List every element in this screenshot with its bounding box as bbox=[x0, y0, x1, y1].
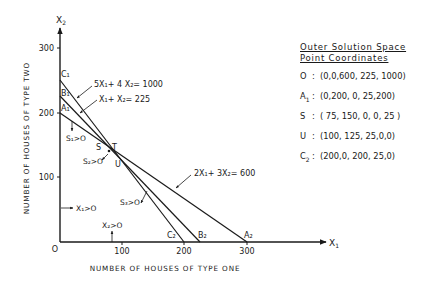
legend-panel: Outer Solution Space Point Coordinates O… bbox=[300, 43, 423, 163]
legend-row-c2: C2 : (200,0, 200, 25,0) bbox=[300, 152, 423, 163]
x-var-label: X1 bbox=[329, 238, 339, 249]
legend-point: A1 bbox=[300, 92, 312, 103]
point-label-c2: C₂ bbox=[167, 231, 176, 240]
leader-arrow-b bbox=[80, 100, 97, 113]
legend-coords: ( 75, 150, 0, 0, 25 ) bbox=[320, 112, 400, 123]
point-label-u: U bbox=[115, 160, 121, 169]
leader-arrow-c bbox=[77, 86, 92, 98]
legend-row-u: U : (100, 125, 25,0,0) bbox=[300, 132, 423, 143]
constraint-label-c: 5X₁+ 4 X₂= 1000 bbox=[94, 80, 163, 89]
x-tick-300: 300 bbox=[239, 247, 254, 256]
constraint-label-b: X₁+ X₂= 225 bbox=[99, 95, 150, 104]
point-label-s: S bbox=[96, 143, 101, 152]
s3-label: S₃>O bbox=[120, 198, 140, 207]
constraint-line-b bbox=[60, 96, 200, 242]
point-label-b1: B₁ bbox=[61, 89, 70, 98]
legend-colon: : bbox=[312, 112, 320, 123]
legend-coords: (0,0,600, 225, 1000) bbox=[320, 72, 406, 83]
legend-title: Outer Solution Space Point Coordinates bbox=[300, 43, 423, 62]
y-tick-200: 200 bbox=[39, 109, 54, 118]
legend-coords: (0,200, 0, 25,200) bbox=[320, 92, 395, 103]
legend-point: U bbox=[300, 132, 312, 143]
x1-label: X₁>O bbox=[76, 204, 96, 213]
point-label-t: T bbox=[111, 143, 117, 152]
point-marker-t bbox=[108, 150, 111, 153]
legend-colon: : bbox=[312, 72, 320, 83]
axes bbox=[57, 28, 326, 245]
legend-point: C2 bbox=[300, 152, 312, 163]
y-tick-100: 100 bbox=[39, 173, 54, 182]
point-label-c1: C₁ bbox=[61, 70, 70, 79]
legend-point: S bbox=[300, 112, 312, 123]
legend-row-o: O : (0,0,600, 225, 1000) bbox=[300, 72, 423, 83]
point-label-b2: B₂ bbox=[198, 231, 207, 240]
x-tick-100: 100 bbox=[114, 247, 129, 256]
point-label-a1: A₁ bbox=[61, 104, 70, 113]
legend-row-s: S : ( 75, 150, 0, 0, 25 ) bbox=[300, 112, 423, 123]
legend-row-a1: A1 : (0,200, 0, 25,200) bbox=[300, 92, 423, 103]
x-tick-200: 200 bbox=[176, 247, 191, 256]
y-var-label: X2 bbox=[56, 15, 66, 26]
s3-arrow bbox=[141, 191, 147, 203]
legend-coords: (200,0, 200, 25,0) bbox=[320, 152, 395, 163]
y-tick-300: 300 bbox=[39, 44, 54, 53]
legend-coords: (100, 125, 25,0,0) bbox=[320, 132, 395, 143]
x2-label: X₂>O bbox=[102, 221, 122, 230]
legend-colon: : bbox=[312, 92, 320, 103]
legend-title-line2: Point Coordinates bbox=[300, 54, 423, 63]
legend-title-line1: Outer Solution Space bbox=[300, 43, 423, 52]
x-axis-title: NUMBER OF HOUSES OF TYPE ONE bbox=[90, 264, 241, 273]
s2-label: S₂>O bbox=[83, 157, 103, 166]
leader-arrow-a bbox=[176, 175, 191, 188]
s1-label: S₁>O bbox=[66, 134, 86, 143]
origin-label: O bbox=[52, 245, 58, 254]
legend-colon: : bbox=[312, 132, 320, 143]
legend-colon: : bbox=[312, 152, 320, 163]
legend-point: O bbox=[300, 72, 312, 83]
constraint-label-a: 2X₁+ 3X₂= 600 bbox=[194, 169, 255, 178]
y-axis-title: NUMBER OF HOUSES OF TYPE TWO bbox=[22, 62, 31, 214]
point-label-a2: A₂ bbox=[244, 231, 253, 240]
